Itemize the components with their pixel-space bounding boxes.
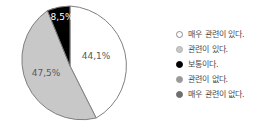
pie-chart-svg: 44,1% 47,5% 8,5% (0, 0, 140, 136)
legend-item-0[interactable]: 매우 관련이 있다. (176, 27, 272, 42)
legend-marker-circle-icon (176, 31, 183, 38)
legend-item-1[interactable]: 관련이 있다. (176, 42, 272, 57)
pie-chart-plot-area: 44,1% 47,5% 8,5% (0, 0, 140, 136)
legend-item-2[interactable]: 보통이다. (176, 57, 272, 72)
legend-marker-circle-icon (176, 91, 183, 98)
legend-marker-circle-icon (176, 76, 183, 83)
legend-item-label: 매우 관련이 있다. (188, 30, 245, 39)
pie-chart-figure: 44,1% 47,5% 8,5% 매우 관련이 있다. 관련이 있다. 보통이다… (0, 0, 272, 136)
legend-marker-circle-icon (176, 61, 183, 68)
legend: 매우 관련이 있다. 관련이 있다. 보통이다. 관련이 없다. 매우 관련이 … (176, 27, 272, 102)
legend-item-3[interactable]: 관련이 없다. (176, 72, 272, 87)
legend-item-label: 관련이 없다. (188, 75, 228, 84)
legend-item-label: 보통이다. (188, 60, 219, 69)
legend-marker-circle-icon (176, 46, 183, 53)
legend-item-label: 관련이 있다. (188, 45, 228, 54)
legend-item-label: 매우 관련이 없다. (188, 90, 245, 99)
legend-item-4[interactable]: 매우 관련이 없다. (176, 87, 272, 102)
